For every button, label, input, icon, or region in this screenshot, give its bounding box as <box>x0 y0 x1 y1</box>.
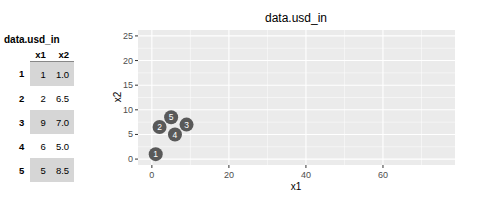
y-tick-label: 10 <box>123 105 133 115</box>
y-tick-label: 0 <box>128 154 133 164</box>
svg-text:3: 3 <box>184 120 189 130</box>
data-point: 2 <box>153 120 167 134</box>
data-point: 5 <box>164 110 178 124</box>
y-tick-label: 25 <box>123 31 133 41</box>
y-tick-label: 5 <box>128 129 133 139</box>
svg-text:5: 5 <box>169 112 174 122</box>
svg-text:4: 4 <box>173 130 178 140</box>
y-tick-label: 20 <box>123 56 133 66</box>
x-tick-label: 40 <box>301 170 311 180</box>
data-point: 4 <box>168 127 182 141</box>
svg-text:1: 1 <box>153 149 158 159</box>
x-tick-label: 60 <box>378 170 388 180</box>
data-point: 3 <box>180 118 194 132</box>
y-tick-label: 15 <box>123 80 133 90</box>
x-tick-label: 0 <box>149 170 154 180</box>
svg-text:2: 2 <box>157 122 162 132</box>
x-axis-label: x1 <box>291 181 302 192</box>
y-axis-label: x2 <box>112 91 123 102</box>
data-point: 1 <box>149 147 163 161</box>
chart-title: data.usd_in <box>265 11 327 25</box>
x-tick-label: 20 <box>224 170 234 180</box>
scatter-chart: data.usd_in 02040600510152025 12345 x1 x… <box>0 0 481 198</box>
